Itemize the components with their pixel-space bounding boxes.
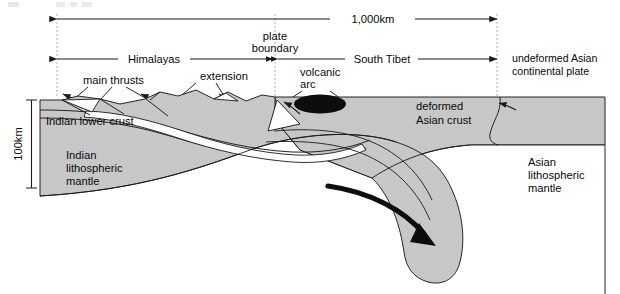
plate-boundary-label-line2: boundary xyxy=(252,42,299,54)
magma-body xyxy=(294,95,346,114)
main-thrusts-label: main thrusts xyxy=(83,74,144,86)
label-indian-lower-crust: Indian lower crust xyxy=(46,115,135,127)
label-deformed-asian-crust-line2: Asian crust xyxy=(416,114,472,126)
label-indian-mantle-line2: lithospheric xyxy=(66,162,123,174)
label-indian-mantle-line3: mantle xyxy=(66,175,100,187)
span-label-himalayas: Himalayas xyxy=(128,53,181,65)
scale-label-1000km: 1,000km xyxy=(352,13,395,25)
label-indian-mantle-line1: Indian xyxy=(66,149,96,161)
label-deformed-asian-crust-line1: deformed xyxy=(416,100,463,112)
scale-label-100km: 100km xyxy=(12,127,24,161)
label-asian-mantle-line1: Asian xyxy=(528,156,556,168)
undeformed-plate-label-line1: undeformed Asian xyxy=(512,52,598,64)
label-asian-mantle-line2: lithospheric xyxy=(528,169,585,181)
undeformed-plate-label-line2: continental plate xyxy=(512,65,589,77)
diagram-canvas: 1,000km plate boundary Himalayas South T… xyxy=(0,0,620,294)
volcanic-arc-label-line2: arc xyxy=(300,78,316,90)
volcanic-arc-label-line1: volcanic xyxy=(300,66,341,78)
cross-section: Indian lower crust Indian lithospheric m… xyxy=(40,90,605,294)
label-asian-mantle-line3: mantle xyxy=(528,182,562,194)
extension-label: extension xyxy=(200,70,248,82)
plate-boundary-label-line1: plate xyxy=(263,30,287,42)
span-label-south-tibet: South Tibet xyxy=(354,53,411,65)
